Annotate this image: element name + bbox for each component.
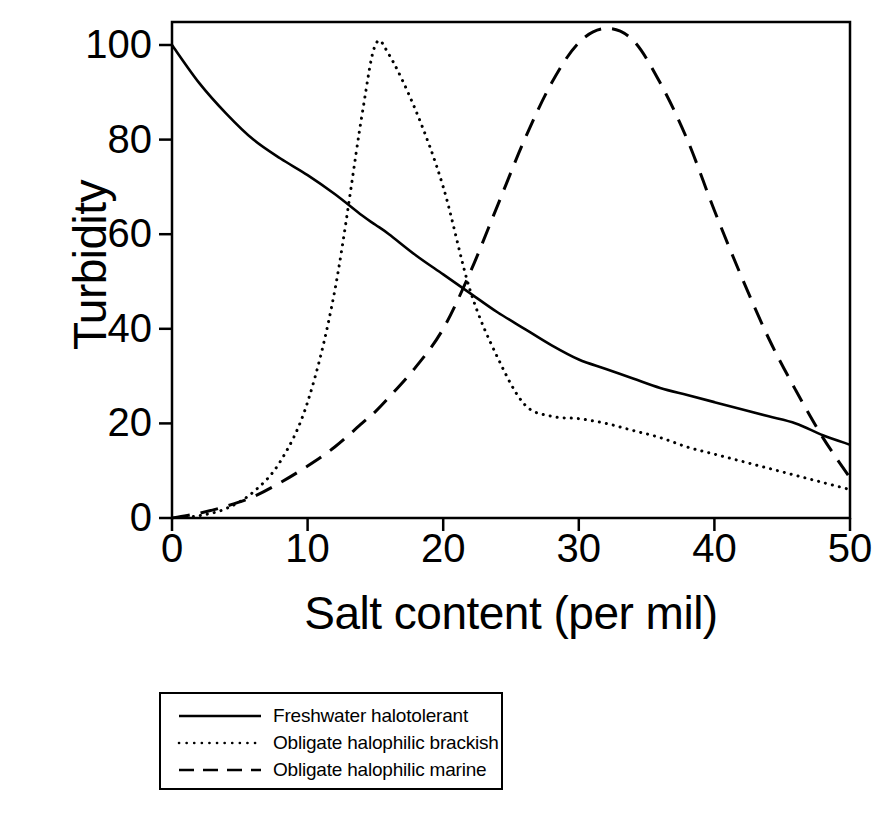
legend-line-swatch (177, 706, 263, 726)
legend-item: Freshwater halotolerant (177, 702, 501, 729)
chart-legend: Freshwater halotolerantObligate halophil… (159, 692, 503, 790)
series-line (172, 40, 850, 518)
legend-label: Obligate halophilic brackish (273, 732, 499, 754)
legend-item: Obligate halophilic marine (177, 756, 501, 783)
series-line (172, 28, 850, 518)
legend-label: Obligate halophilic marine (273, 759, 486, 781)
series-line (172, 45, 850, 445)
plot-frame (172, 22, 850, 518)
y-axis-ticks (159, 45, 172, 518)
legend-label: Freshwater halotolerant (273, 705, 468, 727)
data-series-group (172, 28, 850, 518)
legend-item: Obligate halophilic brackish (177, 729, 501, 756)
legend-items: Freshwater halotolerantObligate halophil… (161, 694, 501, 788)
x-axis-ticks (172, 518, 850, 531)
legend-line-swatch (177, 760, 263, 780)
legend-line-swatch (177, 733, 263, 753)
plot-area (0, 0, 888, 600)
chart-figure: Turbidity 020406080100 01020304050 Salt … (0, 0, 888, 839)
